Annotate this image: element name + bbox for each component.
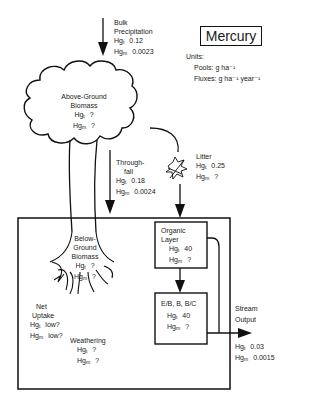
litter-label: Litter Hgt0.25 Hgm?: [196, 152, 225, 183]
organic-to-mineral-arrow: [175, 268, 185, 293]
stream-hgt: Hgt0.03: [235, 342, 275, 353]
diagram-title: Mercury: [200, 26, 262, 46]
organic-hgt: Hgt40: [161, 244, 192, 255]
net-uptake-line1: Net: [30, 302, 63, 311]
bgb-hgt: Hgt?: [64, 261, 106, 272]
organic-lateral-flow-line: [207, 238, 219, 333]
bgb-line1: Below-: [64, 234, 106, 243]
mineral-hgt: Hgt40: [161, 311, 196, 322]
net-uptake-line2: Uptake: [30, 311, 63, 320]
throughfall-line2: fall: [116, 167, 156, 176]
bgb-hgm: Hgm?: [64, 272, 106, 283]
stream-line1: Stream: [235, 304, 258, 313]
weathering-line1: Weathering: [70, 336, 106, 345]
throughfall-hgt: Hgt0.18: [116, 176, 156, 187]
organic-line2: Layer: [161, 235, 192, 244]
bulk-precipitation-hgm: Hgm0.0023: [114, 47, 154, 58]
weathering-label: Weathering Hgt? Hgm?: [70, 336, 106, 367]
bulk-precipitation-line2: Precipitation: [114, 27, 154, 36]
mineral-soil-label: E/B, B, B/C Hgt40 Hgm?: [161, 299, 196, 333]
weathering-hgm: Hgm?: [70, 356, 106, 367]
organic-layer-label: Organic Layer Hgt40 Hgm?: [161, 226, 192, 266]
bgb-line3: Biomass: [64, 252, 106, 261]
agb-line2: Biomass: [52, 101, 116, 110]
litter-arrow: [175, 184, 185, 218]
bgb-line2: Ground: [64, 243, 106, 252]
stream-hgm: Hgm0.0015: [235, 353, 275, 364]
net-uptake-label: Net Uptake Hgtlow? Hgmlow?: [30, 302, 63, 342]
above-ground-biomass-label: Above-Ground Biomass Hgt? Hgm?: [52, 92, 116, 132]
litter-hgm: Hgm?: [196, 172, 225, 183]
units-legend: Units: Pools: g ha⁻¹ Fluxes: g ha⁻¹ year…: [186, 51, 260, 84]
weathering-hgt: Hgt?: [70, 345, 106, 356]
bulk-precipitation-hgt: Hgt0.12: [114, 36, 154, 47]
bulk-precipitation-line1: Bulk: [114, 18, 154, 27]
throughfall-label: Through- fall Hgt0.18 Hgm0.0024: [116, 158, 156, 198]
bulk-precipitation-arrow: [98, 18, 108, 56]
litter-branch-arc: [150, 128, 178, 152]
agb-hgt: Hgt?: [52, 110, 116, 121]
stream-output-values: Hgt0.03 Hgm0.0015: [235, 342, 275, 364]
leaf-icon: [166, 157, 187, 179]
net-uptake-hgt: Hgtlow?: [30, 320, 63, 331]
organic-hgm: Hgm?: [161, 255, 192, 266]
organic-line1: Organic: [161, 226, 192, 235]
litter-hgt: Hgt0.25: [196, 161, 225, 172]
agb-line1: Above-Ground: [52, 92, 116, 101]
stream-line2: Output: [235, 315, 258, 324]
units-label: Units:: [186, 53, 204, 60]
litter-line1: Litter: [196, 152, 225, 161]
units-fluxes: Fluxes: g ha⁻¹ year⁻¹: [186, 73, 260, 84]
mineral-line1: E/B, B, B/C: [161, 299, 196, 308]
units-pools: Pools: g ha⁻¹: [186, 62, 260, 73]
agb-hgm: Hgm?: [52, 121, 116, 132]
below-ground-biomass-label: Below- Ground Biomass Hgt? Hgm?: [64, 234, 106, 283]
throughfall-line1: Through-: [116, 158, 156, 167]
net-uptake-hgm: Hgmlow?: [30, 331, 63, 342]
stream-output-title: Stream Output: [235, 304, 258, 324]
throughfall-arrow: [105, 150, 115, 214]
bulk-precipitation-label: Bulk Precipitation Hgt0.12 Hgm0.0023: [114, 18, 154, 58]
throughfall-hgm: Hgm0.0024: [116, 187, 156, 198]
mineral-hgm: Hgm?: [161, 322, 196, 333]
